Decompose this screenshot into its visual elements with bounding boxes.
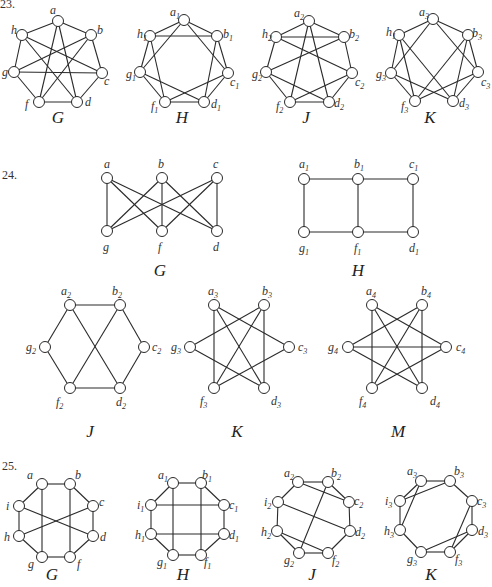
vertex-label-f4: f4 [359, 394, 366, 410]
edge-d2-g2 [266, 72, 329, 102]
vertex-label-b3: b3 [454, 464, 464, 480]
vertex-d2 [115, 383, 126, 394]
vertex-label-a: a [27, 468, 33, 482]
vertex-c3 [467, 496, 478, 507]
graph-caption-G: G [52, 108, 64, 127]
vertex-h2 [271, 32, 282, 43]
graph-caption-G: G [154, 261, 166, 280]
vertex-label-g3: g3 [171, 340, 181, 356]
vertex-c4 [441, 342, 452, 353]
vertex-d2 [324, 97, 335, 108]
vertex-label-g3: g3 [376, 67, 386, 83]
vertex-label-d3: d3 [459, 96, 469, 112]
vertex-label-c1: c1 [229, 498, 238, 514]
vertex-a3 [428, 14, 439, 25]
vertex-label-f2: f2 [56, 395, 63, 411]
vertex-label-d: d [85, 95, 92, 109]
vertex-label-f3: f3 [401, 99, 408, 115]
graph-caption-H: H [175, 108, 190, 127]
graph-24-J-edges [45, 305, 144, 388]
edge-c3-f3 [415, 72, 478, 101]
vertex-label-c2: c2 [152, 340, 161, 356]
vertex-f2 [65, 383, 76, 394]
vertex-label-d2: d2 [116, 395, 126, 411]
vertex-label-f3: f3 [200, 394, 207, 410]
vertex-label-c: c [99, 495, 105, 509]
vertex-label-b1: b1 [354, 157, 364, 173]
vertex-label-b: b [158, 157, 164, 171]
vertex-d2 [345, 526, 356, 537]
vertex-label-g4: g4 [328, 340, 338, 356]
vertex-label-g1: g1 [126, 67, 136, 83]
vertex-f1 [160, 97, 171, 108]
vertex-c1 [408, 174, 419, 185]
vertex-g1 [168, 550, 179, 561]
vertex-label-g2: g2 [26, 340, 36, 356]
vertex-label-f1: f1 [204, 555, 211, 571]
vertex-a [53, 16, 64, 27]
graph-25-H-edges [151, 483, 224, 555]
vertex-label-g: g [28, 557, 34, 571]
graph-25-K-edges [400, 481, 472, 552]
graph-24-M-edges [348, 305, 446, 388]
vertex-a [37, 479, 48, 490]
vertex-label-h: h [4, 530, 10, 544]
edge-c4-f4 [372, 347, 446, 388]
vertex-b [86, 30, 97, 41]
vertex-b [65, 479, 76, 490]
vertex-f1 [353, 227, 364, 238]
edge-a1-c1 [184, 20, 228, 73]
graph-25-J-edges [277, 482, 350, 553]
vertex-a1 [179, 15, 190, 26]
vertex-a2 [65, 300, 76, 311]
vertex-label-c2: c2 [355, 75, 364, 91]
graph-caption-K: K [230, 422, 244, 441]
vertex-label-d1: d1 [229, 528, 239, 544]
vertex-a3 [209, 300, 220, 311]
edge-b-g [14, 35, 91, 72]
graph-caption-K: K [424, 565, 438, 584]
vertex-label-d3: d3 [271, 394, 281, 410]
vertex-label-h3: h1 [386, 25, 396, 41]
vertex-label-d2: d2 [334, 96, 344, 112]
vertex-g2 [261, 67, 272, 78]
vertex-a4 [367, 300, 378, 311]
vertex-d [212, 226, 223, 237]
vertex-label-f2: f2 [332, 553, 339, 569]
vertex-i3 [395, 496, 406, 507]
vertex-h [17, 30, 28, 41]
vertex-f [34, 97, 45, 108]
vertex-label-c2: c2 [354, 494, 363, 510]
vertex-label-h1: h1 [137, 27, 147, 43]
vertex-g1 [299, 227, 310, 238]
vertex-b4 [417, 300, 428, 311]
vertex-b3 [259, 300, 270, 311]
vertex-g2 [294, 548, 305, 559]
vertex-f [65, 552, 76, 563]
vertex-label-g3: g3 [407, 552, 417, 568]
vertex-c [212, 173, 223, 184]
graph-caption-M: M [390, 422, 406, 441]
vertex-label-f: f [77, 557, 82, 571]
vertex-label-i2: i2 [264, 495, 271, 511]
graph-25-G-edges [19, 484, 93, 557]
edge-a2-d2 [309, 21, 329, 102]
vertex-label-i1: i1 [137, 498, 144, 514]
vertex-d3 [448, 96, 459, 107]
vertex-h1 [146, 529, 157, 540]
vertex-i2 [273, 497, 284, 508]
vertex-label-b1: b1 [223, 27, 233, 43]
vertex-label-d: d [213, 240, 220, 254]
vertex-label-c1: c1 [409, 157, 418, 173]
vertex-label-b3: b3 [262, 284, 272, 300]
graph-caption-J: J [308, 565, 317, 584]
vertex-g [102, 226, 113, 237]
graph-isomorphism-exercise-figure: 23.abcdfghGa1b1c1d1f1g1h1Ha2b2c2d2f2g2h2… [0, 0, 492, 587]
vertex-f3 [410, 96, 421, 107]
vertex-d3 [467, 525, 478, 536]
exercise-number: 23. [0, 0, 15, 11]
graph-24-G-edges [107, 178, 217, 231]
vertex-label-f: f [25, 97, 30, 111]
edge-a1-g1 [140, 20, 184, 72]
vertex-label-f1: f1 [354, 241, 361, 257]
